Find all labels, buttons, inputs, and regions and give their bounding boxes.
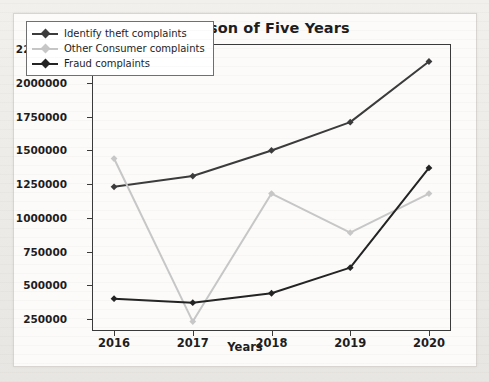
x-axis-label: Years	[14, 340, 476, 354]
y-axis-tick-label: 750000	[0, 246, 67, 258]
chart-lines-svg	[92, 44, 451, 331]
y-axis-tick-label: 1750000	[0, 111, 67, 123]
chart-series	[111, 58, 433, 190]
series-marker	[347, 229, 354, 236]
legend-item[interactable]: Identify theft complaints	[32, 26, 205, 41]
y-axis-tick-mark	[87, 184, 92, 185]
y-axis-tick-label: 500000	[0, 279, 67, 291]
x-axis-tick-mark	[193, 331, 194, 336]
y-axis-tick-mark	[87, 319, 92, 320]
scanned-page-background: Comparison of Five Years 250000500000750…	[0, 0, 489, 382]
chart-legend: Identify theft complaintsOther Consumer …	[26, 21, 214, 76]
y-axis-tick-label: 2000000	[0, 77, 67, 89]
legend-item-label: Other Consumer complaints	[64, 43, 205, 54]
legend-item[interactable]: Fraud complaints	[32, 56, 205, 71]
series-line	[114, 62, 429, 187]
legend-swatch-icon	[32, 58, 58, 70]
y-axis-tick-mark	[87, 218, 92, 219]
y-axis-tick-label: 1500000	[0, 144, 67, 156]
series-marker	[268, 290, 275, 297]
y-axis-tick-label: 1000000	[0, 212, 67, 224]
legend-item-label: Fraud complaints	[64, 58, 150, 69]
y-axis-tick-mark	[87, 83, 92, 84]
series-marker	[111, 155, 118, 162]
x-axis-tick-mark	[272, 331, 273, 336]
plot-area: 2500005000007500001000000125000015000001…	[92, 44, 451, 331]
legend-item[interactable]: Other Consumer complaints	[32, 41, 205, 56]
y-axis-tick-mark	[87, 117, 92, 118]
y-axis-tick-label: 1250000	[0, 178, 67, 190]
series-marker	[111, 295, 118, 302]
legend-item-label: Identify theft complaints	[64, 28, 187, 39]
series-marker	[111, 183, 118, 190]
chart-series	[111, 165, 433, 307]
legend-swatch-icon	[32, 28, 58, 40]
y-axis-tick-mark	[87, 252, 92, 253]
y-axis-tick-label: 250000	[0, 313, 67, 325]
series-line	[114, 159, 429, 322]
y-axis-tick-mark	[87, 150, 92, 151]
chart-figure-panel: Comparison of Five Years 250000500000750…	[13, 13, 477, 367]
series-marker	[426, 190, 433, 197]
series-marker	[189, 299, 196, 306]
x-axis-tick-mark	[350, 331, 351, 336]
x-axis-tick-mark	[114, 331, 115, 336]
series-marker	[189, 173, 196, 180]
series-marker	[268, 147, 275, 154]
series-line	[114, 168, 429, 303]
x-axis-tick-mark	[429, 331, 430, 336]
legend-swatch-icon	[32, 43, 58, 55]
y-axis-tick-mark	[87, 285, 92, 286]
